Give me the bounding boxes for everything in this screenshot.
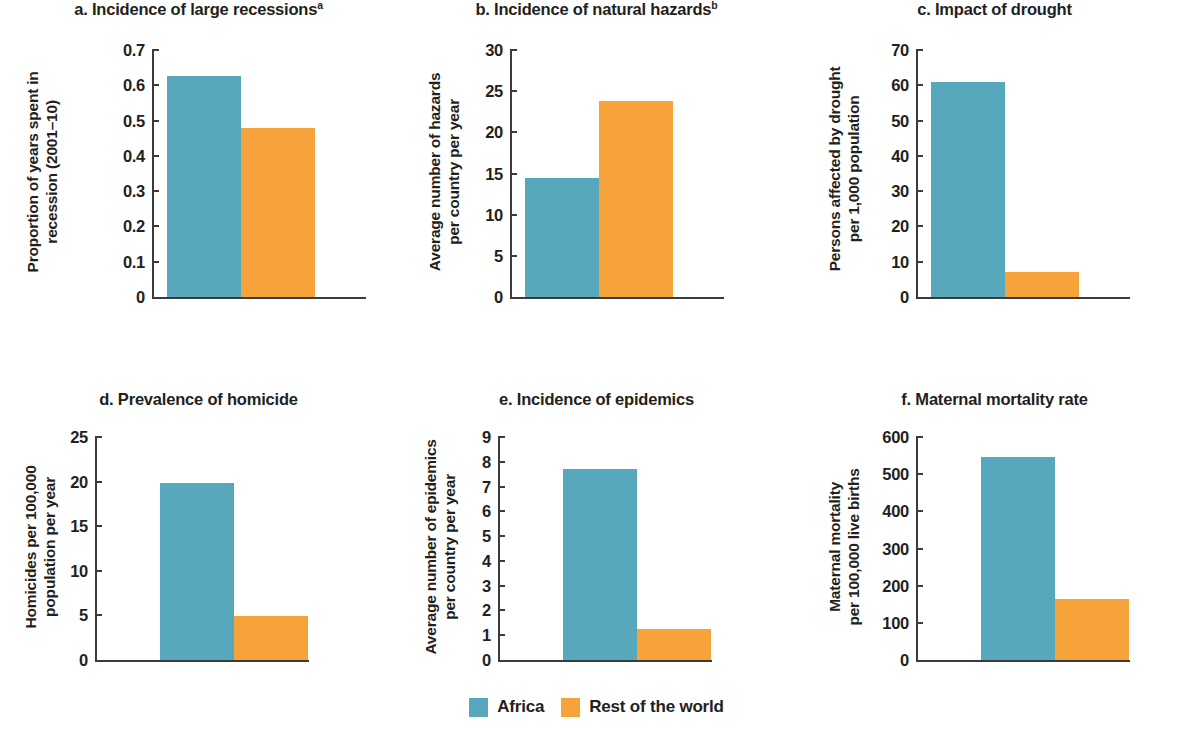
panel-a-y-tick-label: 0 — [136, 288, 145, 307]
panel-d-y-tick — [95, 525, 102, 527]
legend-item-rest: Rest of the world — [561, 697, 724, 717]
panel-e-y-tick-label: 2 — [482, 601, 491, 620]
panel-c-y-tick — [916, 190, 923, 192]
panel-e-bar-rest-of-the-world — [637, 629, 711, 660]
panel-c-y-tick-label: 40 — [891, 146, 909, 165]
legend-label-rest: Rest of the world — [589, 697, 724, 717]
panel-e-y-tick-label: 4 — [482, 551, 491, 570]
panel-e-y-tick — [498, 535, 505, 537]
panel-b-title-footnote-marker: b — [711, 0, 717, 11]
panel-d-y-tick — [95, 436, 102, 438]
panel-d-y-tick-label: 5 — [79, 606, 88, 625]
panel-a-x-axis-line — [152, 297, 366, 299]
panel-f-y-tick-label: 200 — [882, 576, 909, 595]
panel-a-y-tick-label: 0.5 — [123, 111, 145, 130]
panel-f-y-axis-label: Maternal mortality per 100,000 live birt… — [825, 415, 863, 678]
panel-b: b. Incidence of natural hazardsbAverage … — [398, 0, 795, 340]
panel-d-x-axis-line — [95, 660, 309, 662]
panel-f-y-tick — [916, 585, 923, 587]
panel-d-y-tick — [95, 614, 102, 616]
panel-a-plot-area: 00.10.20.30.40.50.60.7 — [152, 50, 364, 297]
panel-a-y-tick-label: 0.4 — [123, 146, 145, 165]
panel-e-y-tick-label: 0 — [482, 651, 491, 670]
panel-c-y-tick — [916, 261, 923, 263]
panel-d-y-tick-label: 15 — [70, 517, 88, 536]
panel-d-y-tick — [95, 481, 102, 483]
figure-multi-panel-bar-charts: a. Incidence of large recessionsaProport… — [0, 0, 1193, 735]
panel-c-y-tick-label: 60 — [891, 76, 909, 95]
panel-b-y-tick-label: 25 — [485, 82, 503, 101]
panel-b-y-tick — [510, 131, 517, 133]
panel-d-bar-rest-of-the-world — [234, 616, 308, 660]
panel-d-y-tick-label: 25 — [70, 428, 88, 447]
panel-f-y-tick-label: 300 — [882, 539, 909, 558]
panel-d-bar-africa — [160, 483, 234, 660]
panel-e-y-tick-label: 6 — [482, 502, 491, 521]
panel-b-y-tick — [510, 255, 517, 257]
panel-e-bar-africa — [563, 469, 637, 660]
panel-b-y-tick — [510, 214, 517, 216]
panel-f: f. Maternal mortality rateMaternal morta… — [796, 390, 1193, 690]
panel-b-y-tick-label: 10 — [485, 205, 503, 224]
panel-b-y-tick — [510, 49, 517, 51]
panel-e-y-tick — [498, 560, 505, 562]
panel-a-bar-africa — [167, 76, 241, 297]
panel-c-y-tick-label: 50 — [891, 111, 909, 130]
panel-f-bar-africa — [981, 457, 1055, 660]
panel-a-y-tick — [152, 120, 159, 122]
panel-d-y-axis-label: Homicides per 100,000 population per yea… — [21, 415, 59, 678]
panel-f-y-tick — [916, 622, 923, 624]
panel-e-y-tick-label: 5 — [482, 527, 491, 546]
panel-f-y-tick-label: 500 — [882, 465, 909, 484]
panel-e: e. Incidence of epidemicsAverage number … — [398, 390, 795, 690]
panel-b-y-tick-label: 20 — [485, 123, 503, 142]
panel-e-y-tick-label: 9 — [482, 428, 491, 447]
panel-e-title: e. Incidence of epidemics — [398, 390, 795, 409]
panel-b-bar-africa — [525, 178, 599, 297]
panel-c-y-tick — [916, 120, 923, 122]
panel-a-y-tick-label: 0.7 — [123, 41, 145, 60]
panel-a-y-tick-label: 0.2 — [123, 217, 145, 236]
panel-f-y-tick — [916, 436, 923, 438]
panel-f-y-tick-label: 100 — [882, 613, 909, 632]
panel-f-y-tick — [916, 548, 923, 550]
panel-a-y-tick-label: 0.6 — [123, 76, 145, 95]
panel-f-bar-rest-of-the-world — [1055, 599, 1129, 660]
panel-b-y-axis-label: Average number of hazards per country pe… — [425, 28, 463, 315]
panel-f-x-axis-line — [916, 660, 1130, 662]
panel-c-y-tick — [916, 225, 923, 227]
panel-d-y-tick-label: 10 — [70, 561, 88, 580]
panel-b-x-axis-line — [510, 297, 724, 299]
panel-e-y-tick-label: 1 — [482, 626, 491, 645]
panel-a-y-tick-label: 0.1 — [123, 252, 145, 271]
panel-b-plot-area: 051015202530 — [510, 50, 722, 297]
panel-f-y-tick — [916, 473, 923, 475]
panel-e-y-tick — [498, 585, 505, 587]
panel-c-y-tick-label: 70 — [891, 41, 909, 60]
panel-c-y-tick — [916, 155, 923, 157]
legend-item-africa: Africa — [469, 697, 544, 717]
panel-f-y-tick — [916, 510, 923, 512]
panel-c-y-axis-label: Persons affected by drought per 1,000 po… — [825, 25, 863, 312]
panel-a: a. Incidence of large recessionsaProport… — [0, 0, 397, 340]
panel-e-y-tick — [498, 609, 505, 611]
panel-a-bar-rest-of-the-world — [241, 128, 315, 297]
panel-f-y-tick-label: 600 — [882, 428, 909, 447]
panel-b-y-tick-label: 15 — [485, 164, 503, 183]
panel-b-title: b. Incidence of natural hazardsb — [398, 0, 795, 19]
panel-e-plot-area: 0123456789 — [498, 437, 710, 660]
panel-c-y-tick — [916, 84, 923, 86]
panel-b-y-tick-label: 5 — [494, 246, 503, 265]
panel-a-y-tick — [152, 49, 159, 51]
panel-c: c. Impact of droughtPersons affected by … — [796, 0, 1193, 340]
panel-c-y-tick — [916, 49, 923, 51]
panel-a-y-tick-label: 0.3 — [123, 182, 145, 201]
panel-b-bar-rest-of-the-world — [599, 101, 673, 297]
panel-d-y-tick — [95, 570, 102, 572]
panel-a-y-tick — [152, 190, 159, 192]
panel-d-y-tick-label: 20 — [70, 472, 88, 491]
panel-c-bar-rest-of-the-world — [1005, 272, 1079, 297]
panel-e-x-axis-line — [498, 660, 712, 662]
panel-a-title-footnote-marker: a — [317, 0, 323, 11]
panel-f-title: f. Maternal mortality rate — [796, 390, 1193, 409]
